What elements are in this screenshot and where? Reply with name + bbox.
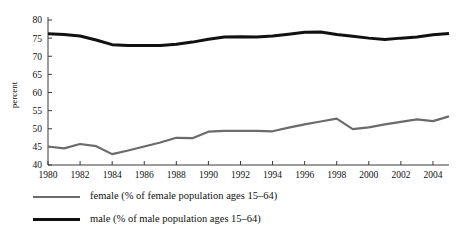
x-tick-label: 1982 <box>71 170 90 180</box>
series-line-male <box>48 32 449 45</box>
legend-item-female: female (% of female population ages 15–6… <box>0 185 456 208</box>
x-tick-label: 1994 <box>263 170 282 180</box>
x-tick-label: 1996 <box>295 170 314 180</box>
y-tick-label: 80 <box>33 15 43 25</box>
legend-item-male: male (% of male population ages 15–64) <box>0 208 456 231</box>
x-tick-label: 1984 <box>103 170 122 180</box>
legend-swatch-male-icon <box>33 218 80 221</box>
line-chart-svg: percent 404550556065707580 1980198219841… <box>0 0 456 185</box>
x-tick-label: 1986 <box>135 170 154 180</box>
y-tick-label: 55 <box>33 106 43 116</box>
y-axis-tick-labels: 404550556065707580 <box>33 15 43 170</box>
x-tick-label: 1988 <box>167 170 186 180</box>
y-tick-label: 45 <box>33 142 43 152</box>
x-tick-label: 2000 <box>359 170 378 180</box>
y-tick-label: 40 <box>33 160 43 170</box>
chart-legend: female (% of female population ages 15–6… <box>0 185 456 231</box>
y-tick-label: 70 <box>33 52 43 62</box>
chart-plot-area: percent 404550556065707580 1980198219841… <box>0 0 456 185</box>
y-tick-label: 75 <box>33 34 43 44</box>
x-tick-label: 2002 <box>391 170 410 180</box>
legend-label-male: male (% of male population ages 15–64) <box>90 214 261 225</box>
x-tick-label: 2004 <box>423 170 442 180</box>
legend-swatch-female-icon <box>33 196 80 198</box>
x-tick-label: 1980 <box>39 170 58 180</box>
y-axis-title: percent <box>9 81 19 108</box>
x-tick-label: 1990 <box>199 170 218 180</box>
y-tick-label: 60 <box>33 88 43 98</box>
legend-label-female: female (% of female population ages 15–6… <box>90 191 277 202</box>
series-line-female <box>48 116 449 154</box>
y-tick-label: 50 <box>33 124 43 134</box>
y-tick-label: 65 <box>33 70 43 80</box>
x-tick-label: 1998 <box>327 170 346 180</box>
x-tick-label: 1992 <box>231 170 250 180</box>
chart-figure: percent 404550556065707580 1980198219841… <box>0 0 456 231</box>
x-axis-tick-labels: 1980198219841986198819901992199419961998… <box>39 170 443 180</box>
